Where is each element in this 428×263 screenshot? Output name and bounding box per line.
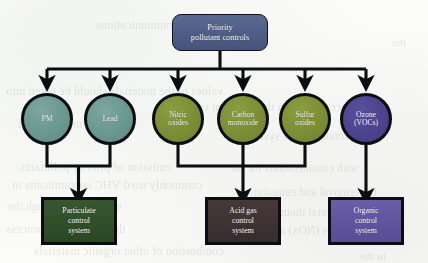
organic-label-line2: control xyxy=(355,216,377,225)
lead-label-line1: Lead xyxy=(102,114,117,123)
node-label: Carbon monoxide xyxy=(228,111,258,128)
node-label: Ozone (VOCs) xyxy=(354,111,378,128)
node-organic-control-system[interactable]: Organic control system xyxy=(328,197,404,245)
node-priority-pollutant-controls[interactable]: Priority pollutant controls xyxy=(172,14,268,51)
node-nitric-oxides[interactable]: Nitric oxides xyxy=(152,93,204,145)
ozone-label-line1: Ozone xyxy=(356,110,376,119)
pm-label-line1: PM xyxy=(42,114,53,123)
sulfur-label-line2: oxides xyxy=(295,118,315,127)
node-label: Acid gas control system xyxy=(229,206,257,236)
node-lead[interactable]: Lead xyxy=(84,93,136,145)
nitric-label-line1: Nitric xyxy=(169,110,187,119)
node-acid-gas-control-system[interactable]: Acid gas control system xyxy=(205,197,281,245)
node-sulfur-oxides[interactable]: Sulfur oxides xyxy=(279,93,331,145)
carbon-label-line2: monoxide xyxy=(228,118,258,127)
node-particulate-control-system[interactable]: Particulate control system xyxy=(41,197,117,245)
particulate-label-line3: system xyxy=(68,226,90,235)
node-label: Priority pollutant controls xyxy=(191,23,249,42)
node-label: PM xyxy=(42,115,53,124)
ozone-label-line2: (VOCs) xyxy=(354,118,378,127)
acidgas-label-line2: control xyxy=(232,216,254,225)
nitric-label-line2: oxides xyxy=(168,118,188,127)
particulate-label-line2: control xyxy=(68,216,90,225)
node-label: Lead xyxy=(102,115,117,124)
node-carbon-monoxide[interactable]: Carbon monoxide xyxy=(217,93,269,145)
node-label: Sulfur oxides xyxy=(295,111,315,128)
organic-label-line3: system xyxy=(355,226,377,235)
node-label: Particulate control system xyxy=(62,206,95,236)
diagram-page: communicationsthevalues of the materials… xyxy=(0,0,428,263)
node-label: Organic control system xyxy=(354,206,379,236)
node-label: Nitric oxides xyxy=(168,111,188,128)
organic-label-line1: Organic xyxy=(354,206,379,215)
root-label-line2: pollutant controls xyxy=(191,33,249,42)
node-ozone-vocs[interactable]: Ozone (VOCs) xyxy=(340,93,392,145)
particulate-label-line1: Particulate xyxy=(62,206,95,215)
carbon-label-line1: Carbon xyxy=(232,110,254,119)
acidgas-label-line1: Acid gas xyxy=(229,206,257,215)
sulfur-label-line1: Sulfur xyxy=(296,110,315,119)
acidgas-label-line3: system xyxy=(232,226,254,235)
node-pm[interactable]: PM xyxy=(21,93,73,145)
root-label-line1: Priority xyxy=(207,23,232,32)
